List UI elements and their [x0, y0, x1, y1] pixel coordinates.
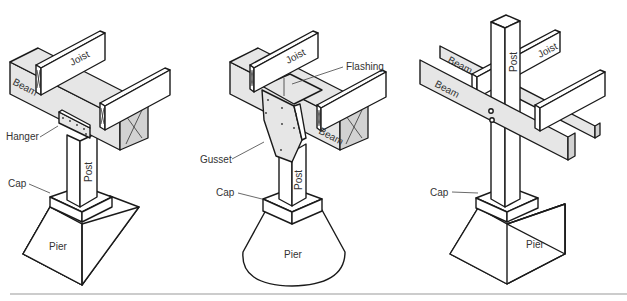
arrow-cap — [238, 193, 262, 199]
label-pier: Pier — [284, 249, 302, 260]
label-pier: Pier — [49, 241, 67, 252]
label-post: Post — [508, 52, 519, 72]
arrow-gusset — [232, 142, 264, 159]
panel-through-post-detail: Beam Beam Joist Post Cap Pier — [420, 15, 605, 284]
label-pier: Pier — [526, 239, 544, 250]
label-cap: Cap — [216, 187, 235, 198]
arrow-cap — [29, 184, 50, 193]
panel-gusset-detail: Joist Flashing Beam Gusset Post Cap Pier — [200, 31, 386, 286]
label-cap: Cap — [8, 178, 27, 189]
panel-hanger-detail: Joist Beam Hanger Post Cap Pier — [6, 31, 170, 285]
arrow-hanger — [40, 126, 58, 137]
label-flashing: Flashing — [346, 61, 384, 72]
arrow-cap — [452, 192, 478, 193]
label-post: Post — [293, 170, 304, 190]
label-gusset: Gusset — [200, 154, 232, 165]
label-cap: Cap — [430, 187, 449, 198]
connection-diagram: Joist Beam Hanger Post Cap Pier — [0, 0, 627, 301]
label-post: Post — [83, 162, 94, 182]
label-hanger: Hanger — [6, 131, 39, 142]
